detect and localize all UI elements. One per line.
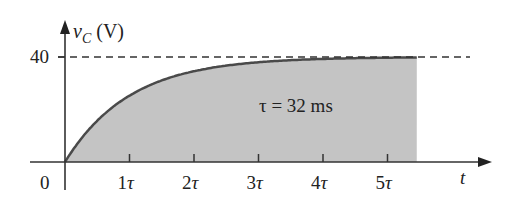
y-axis-arrow-icon — [60, 20, 70, 34]
x-axis-arrow-icon — [478, 157, 492, 167]
origin-label: 0 — [40, 172, 50, 193]
y-axis-label: vC(V) — [73, 20, 124, 46]
x-tick-label: 3τ — [247, 172, 265, 193]
x-tick-label: 4τ — [311, 172, 329, 193]
area-fill — [65, 57, 417, 162]
x-axis-label: t — [460, 167, 466, 188]
y-tick-label-40: 40 — [30, 46, 49, 67]
x-tick-label: 5τ — [376, 172, 394, 193]
tau-annotation: τ = 32 ms — [259, 95, 333, 116]
x-tick-label: 1τ — [118, 172, 136, 193]
chart: 1τ2τ3τ4τ5τ 40 0 vC(V) t τ = 32 ms — [0, 0, 515, 204]
x-tick-label: 2τ — [182, 172, 200, 193]
